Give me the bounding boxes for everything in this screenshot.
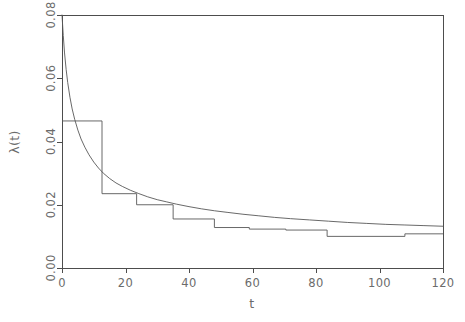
y-axis-tick-labels: 0.000.020.040.060.08 <box>44 1 58 281</box>
x-tick-label: 60 <box>245 276 260 290</box>
x-tick-label: 120 <box>431 276 454 290</box>
axis-frame-top <box>62 15 443 268</box>
x-tick-label: 0 <box>58 276 66 290</box>
hazard-rate-chart: 020406080100120 0.000.020.040.060.08 t λ… <box>0 0 465 322</box>
y-tick-label: 0.00 <box>44 254 58 281</box>
smooth-hazard-curve <box>62 15 443 226</box>
axis-frame <box>62 15 443 268</box>
y-tick-label: 0.02 <box>44 191 58 218</box>
y-tick-label: 0.04 <box>44 128 58 155</box>
y-tick-label: 0.06 <box>44 65 58 92</box>
y-axis-title: λ(t) <box>7 130 22 154</box>
x-axis-title: t <box>249 296 254 311</box>
x-tick-label: 100 <box>368 276 391 290</box>
piecewise-constant-hazard-curve <box>62 121 443 236</box>
x-axis-ticks <box>63 268 444 273</box>
x-tick-label: 40 <box>181 276 196 290</box>
y-tick-label: 0.08 <box>44 1 58 28</box>
x-tick-label: 80 <box>308 276 323 290</box>
chart-canvas: 020406080100120 0.000.020.040.060.08 t λ… <box>0 0 465 322</box>
x-axis-tick-labels: 020406080100120 <box>58 276 454 290</box>
x-tick-label: 20 <box>118 276 133 290</box>
